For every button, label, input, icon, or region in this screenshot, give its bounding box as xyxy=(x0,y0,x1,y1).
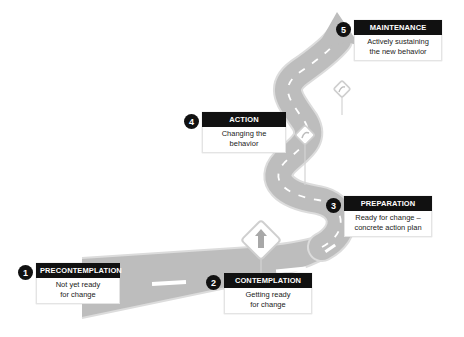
stage-description: Changing the behavior xyxy=(202,127,286,153)
curve-sign-icon xyxy=(334,81,351,115)
stage-number-badge: 1 xyxy=(18,265,33,280)
stage-title: CONTEMPLATION xyxy=(224,273,312,288)
stage-title: ACTION xyxy=(202,112,286,127)
stage-card: CONTEMPLATION Getting ready for change xyxy=(224,273,312,314)
stage-description: Getting ready for change xyxy=(224,288,312,314)
stage-description: Not yet ready for change xyxy=(36,278,120,304)
stage-number-badge: 4 xyxy=(184,114,199,129)
stage-description: Ready for change – concrete action plan xyxy=(344,211,432,237)
stage-contemplation: 2 CONTEMPLATION Getting ready for change xyxy=(206,273,312,314)
stage-description: Actively sustaining the new behavior xyxy=(354,35,442,61)
stage-title: PRECONTEMPLATION xyxy=(36,263,120,278)
stage-card: PRECONTEMPLATION Not yet ready for chang… xyxy=(36,263,120,304)
stage-number-badge: 3 xyxy=(326,198,341,213)
stage-precontemplation: 1 PRECONTEMPLATION Not yet ready for cha… xyxy=(18,263,120,304)
stage-card: ACTION Changing the behavior xyxy=(202,112,286,153)
stage-card: PREPARATION Ready for change – concrete … xyxy=(344,196,432,237)
stage-card: MAINTENANCE Actively sustaining the new … xyxy=(354,20,442,61)
stage-maintenance: 5 MAINTENANCE Actively sustaining the ne… xyxy=(336,20,442,61)
stage-number-badge: 5 xyxy=(336,22,351,37)
stage-action: 4 ACTION Changing the behavior xyxy=(184,112,286,153)
stage-preparation: 3 PREPARATION Ready for change – concret… xyxy=(326,196,432,237)
stage-title: MAINTENANCE xyxy=(354,20,442,35)
stage-number-badge: 2 xyxy=(206,275,221,290)
stage-title: PREPARATION xyxy=(344,196,432,211)
